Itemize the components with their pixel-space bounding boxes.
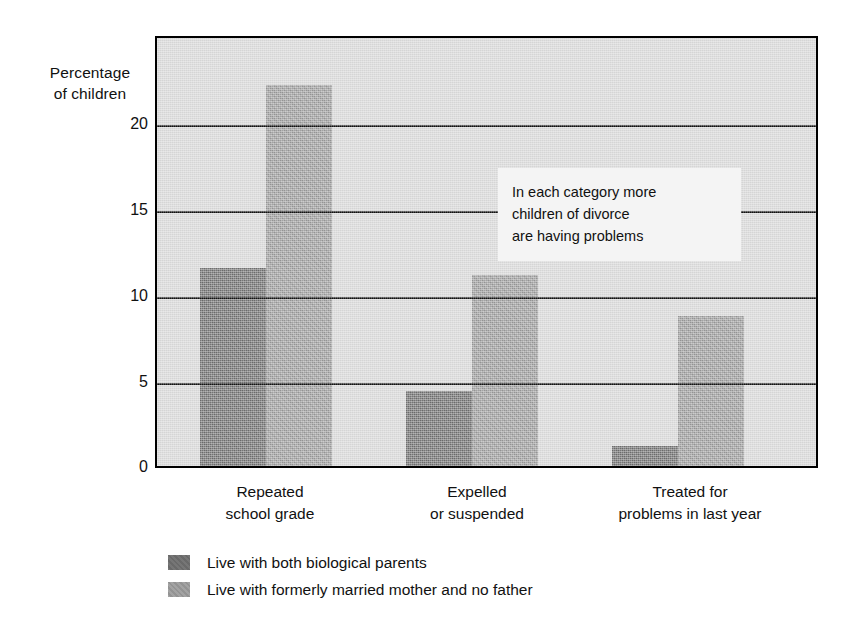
y-tick-label-20: 20 [104,115,148,133]
bar-expelled-or-suspended-both-parents [406,391,472,466]
legend-label-both-biological-parents: Live with both biological parents [207,554,427,572]
legend: Live with both biological parents Live w… [168,551,533,605]
annotation-line-3: are having problems [512,225,727,247]
x-label-3-line-1: Treated for [592,481,788,503]
x-axis-label-expelled-or-suspended: Expelled or suspended [387,481,567,525]
y-tick-label-15: 15 [104,201,148,219]
bar-treated-for-problems-both-parents [612,446,678,466]
x-axis-label-treated-for-problems: Treated for problems in last year [592,481,788,525]
legend-item-both-biological-parents: Live with both biological parents [168,551,533,574]
y-tick-label-5: 5 [104,373,148,391]
gridline-5 [157,383,816,385]
annotation-line-1: In each category more [512,181,727,203]
x-label-3-line-2: problems in last year [592,503,788,525]
y-tick-label-10: 10 [104,287,148,305]
legend-item-formerly-married-mother: Live with formerly married mother and no… [168,578,533,601]
chart-figure: Percentage of children 20 15 10 5 0 [0,0,862,628]
y-axis-title-line-1: Percentage [30,62,150,83]
legend-swatch-both-biological-parents [168,555,190,570]
annotation-line-2: children of divorce [512,203,727,225]
bar-expelled-or-suspended-mother-only [472,275,538,466]
legend-swatch-formerly-married-mother [168,582,190,597]
x-axis-label-repeated-school-grade: Repeated school grade [180,481,360,525]
x-label-2-line-2: or suspended [387,503,567,525]
y-tick-label-0: 0 [104,458,148,476]
gridline-10 [157,297,816,299]
legend-label-formerly-married-mother: Live with formerly married mother and no… [207,581,533,599]
x-label-1-line-2: school grade [180,503,360,525]
x-label-2-line-1: Expelled [387,481,567,503]
annotation-callout: In each category more children of divorc… [498,168,741,261]
y-axis-title: Percentage of children [30,62,150,104]
y-axis-title-line-2: of children [30,83,150,104]
bar-treated-for-problems-mother-only [678,316,744,466]
gridline-20 [157,125,816,127]
x-label-1-line-1: Repeated [180,481,360,503]
bar-repeated-school-grade-mother-only [266,85,332,466]
